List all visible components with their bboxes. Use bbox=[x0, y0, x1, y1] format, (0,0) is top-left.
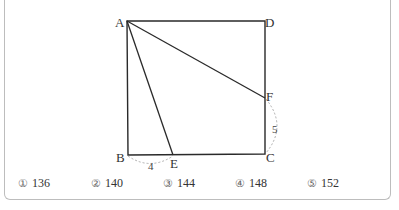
length-fc: 5 bbox=[272, 123, 278, 135]
choice-value: 144 bbox=[177, 176, 195, 190]
point-label-c: C bbox=[266, 150, 275, 165]
choice-value: 140 bbox=[105, 176, 123, 190]
answer-choices: ①136 ②140 ③144 ④148 ⑤152 bbox=[18, 176, 378, 192]
choice-4[interactable]: ④148 bbox=[235, 176, 267, 191]
choice-marker: ② bbox=[91, 177, 101, 189]
segment-ae bbox=[127, 21, 173, 155]
choice-value: 152 bbox=[321, 176, 339, 190]
choice-marker: ③ bbox=[163, 177, 173, 189]
choice-5[interactable]: ⑤152 bbox=[307, 176, 339, 191]
choice-2[interactable]: ②140 bbox=[91, 176, 123, 191]
choice-value: 148 bbox=[249, 176, 267, 190]
point-label-f: F bbox=[266, 89, 273, 104]
length-be: 4 bbox=[148, 160, 154, 172]
choice-value: 136 bbox=[32, 176, 50, 190]
choice-marker: ① bbox=[18, 177, 28, 189]
point-label-b: B bbox=[116, 150, 125, 165]
choice-marker: ⑤ bbox=[307, 177, 317, 189]
square-abcd bbox=[127, 21, 265, 155]
point-label-e: E bbox=[170, 156, 178, 171]
choice-1[interactable]: ①136 bbox=[18, 176, 50, 191]
segment-af bbox=[127, 21, 265, 98]
choice-marker: ④ bbox=[235, 177, 245, 189]
point-label-a: A bbox=[115, 15, 125, 30]
choice-3[interactable]: ③144 bbox=[163, 176, 195, 191]
point-label-d: D bbox=[265, 15, 274, 30]
